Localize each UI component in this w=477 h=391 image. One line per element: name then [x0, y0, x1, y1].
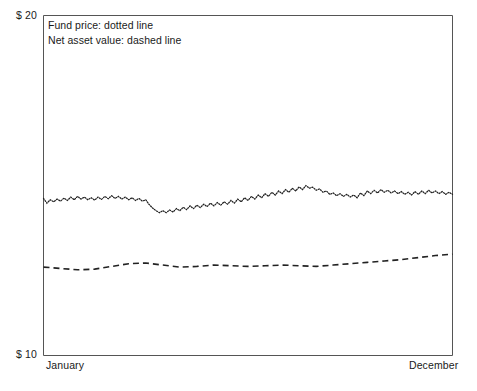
fund-performance-chart: $ 20 $ 10 January December Fund price: d…: [0, 0, 477, 391]
series-line-fund-price: [44, 186, 453, 213]
plot-area: [0, 0, 477, 391]
axis-frame: [44, 16, 453, 356]
series-line-net-asset-value: [44, 254, 453, 270]
